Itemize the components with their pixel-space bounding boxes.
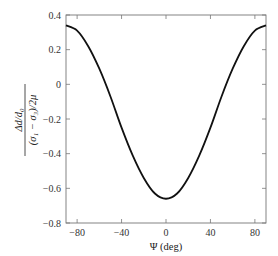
- series-line: [66, 25, 266, 198]
- y-tick-label: 0.2: [49, 44, 62, 55]
- y-tick-label: 0: [56, 79, 61, 90]
- x-tick-label: 80: [250, 227, 260, 238]
- y-tick-label: −0.8: [43, 218, 61, 229]
- x-axis-label: Ψ (deg): [150, 241, 183, 253]
- x-tick-labels: −80−4004080: [69, 227, 260, 238]
- chart: −80−4004080 0.40.20−0.2−0.4−0.6−0.8 Ψ (d…: [0, 0, 278, 256]
- y-axis-label-numerator: Δd/d₀: [13, 108, 24, 133]
- x-tick-label: −80: [69, 227, 85, 238]
- x-tick-label: 0: [164, 227, 169, 238]
- y-tick-label: 0.4: [49, 10, 62, 21]
- y-tick-label: −0.4: [43, 148, 61, 159]
- y-axis-label-denominator: (σ₁ − σ₃)/2μ: [27, 95, 39, 145]
- y-tick-label: −0.2: [43, 114, 61, 125]
- x-tick-label: 40: [205, 227, 215, 238]
- y-tick-label: −0.6: [43, 183, 61, 194]
- x-tick-label: −40: [114, 227, 130, 238]
- plot-frame: [66, 15, 266, 223]
- y-tick-labels: 0.40.20−0.2−0.4−0.6−0.8: [43, 10, 61, 229]
- ticks: [66, 15, 266, 223]
- y-axis-label: Δd/d₀ (σ₁ − σ₃)/2μ: [13, 84, 39, 156]
